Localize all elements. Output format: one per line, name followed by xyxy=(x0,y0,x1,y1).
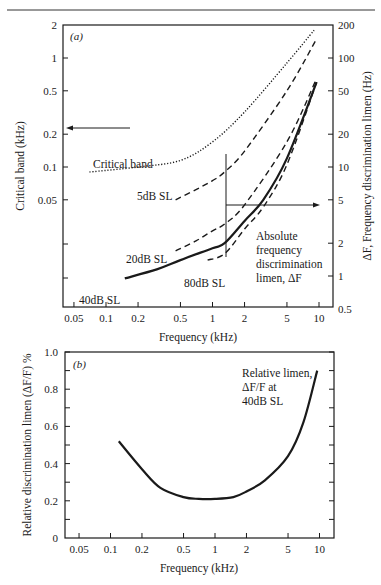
y-tick-label: 2 xyxy=(338,237,344,249)
panel-a-left-y-title: Critical band (kHz) xyxy=(14,121,27,211)
y-tick-label: 0.1 xyxy=(43,161,57,173)
x-tick-label: 0.05 xyxy=(64,312,84,324)
y-tick-label: 0 xyxy=(53,532,59,544)
sl40-label: 40dB SL xyxy=(79,294,120,306)
absolute-limen-label: Absolute frequency discrimination limen,… xyxy=(256,230,323,285)
x-tick-label: 10 xyxy=(314,543,326,555)
panel-a-right-y-axis: 2001005020105210.5 xyxy=(328,19,355,315)
y-tick-label: 1 xyxy=(338,270,344,282)
arrow-left-icon xyxy=(66,126,73,131)
y-tick-label: 50 xyxy=(338,85,350,97)
y-tick-label: 0.05 xyxy=(38,194,58,206)
critical-band-label: Critical band xyxy=(93,158,153,170)
y-tick-label: 0.5 xyxy=(338,303,352,315)
sl5-label: 5dB SL xyxy=(137,190,172,202)
x-tick-label: 5 xyxy=(284,312,290,324)
y-tick-label: 20 xyxy=(338,128,350,140)
relative-label-line-1: Relative limen, xyxy=(242,367,312,380)
panel-b-y-title: Relative discrimination limen (ΔF/F) % xyxy=(21,353,34,536)
x-tick-label: 0.1 xyxy=(99,312,113,324)
absolute-label-line-2: frequency xyxy=(256,244,302,257)
x-tick-label: 1 xyxy=(212,543,218,555)
y-tick-label: 0.4 xyxy=(44,458,58,470)
y-tick-label: 5 xyxy=(338,194,344,206)
y-tick-label: 200 xyxy=(338,19,355,31)
relative-label-line-2: ΔF/F at xyxy=(242,381,277,393)
panel-a-label: (a) xyxy=(70,30,83,43)
x-tick-label: 2 xyxy=(242,312,248,324)
y-tick-label: 0.6 xyxy=(44,420,58,432)
panel-b-x-axis: 0.050.10.20.512510 xyxy=(69,533,325,555)
x-tick-label: 5 xyxy=(285,543,291,555)
absolute-label-line-4: limen, ΔF xyxy=(256,272,302,285)
x-tick-label: 0.05 xyxy=(69,543,89,555)
y-tick-label: 1.0 xyxy=(44,346,58,358)
sl80-label: 80dB SL xyxy=(184,277,225,289)
panel-b-label: (b) xyxy=(73,358,86,371)
arrow-right-icon xyxy=(313,203,320,208)
panel-b-x-title: Frequency (kHz) xyxy=(160,562,238,575)
x-tick-label: 0.5 xyxy=(174,312,188,324)
x-tick-label: 10 xyxy=(314,312,326,324)
y-tick-label: 2 xyxy=(52,19,58,31)
panel-b-chart: 0.050.10.20.512510 00.20.40.60.81.0 (b) … xyxy=(21,346,334,575)
curve-5db-sl xyxy=(176,39,317,200)
curve-relative-limen xyxy=(119,371,317,500)
relative-label-line-3: 40dB SL xyxy=(242,395,283,407)
absolute-label-line-1: Absolute xyxy=(256,230,298,242)
panel-a-right-y-title: ΔF, Frequency discrimination limen (Hz) xyxy=(361,71,374,261)
y-tick-label: 1 xyxy=(52,52,58,64)
figure: 0.050.10.20.512510 210.50.20.10.05 20010… xyxy=(0,0,381,585)
y-tick-label: 0.2 xyxy=(43,128,57,140)
x-tick-label: 2 xyxy=(244,543,250,555)
panel-a-chart: 0.050.10.20.512510 210.50.20.10.05 20010… xyxy=(14,19,374,344)
x-tick-label: 1 xyxy=(210,312,216,324)
relative-limen-label: Relative limen, ΔF/F at 40dB SL xyxy=(242,367,312,407)
y-tick-label: 10 xyxy=(338,161,350,173)
y-tick-label: 0.2 xyxy=(44,495,58,507)
y-tick-label: 0.5 xyxy=(43,85,57,97)
y-tick-label: 100 xyxy=(338,52,355,64)
x-tick-label: 0.5 xyxy=(177,543,191,555)
panel-a-x-title: Frequency (kHz) xyxy=(159,331,237,344)
x-tick-label: 0.1 xyxy=(104,543,118,555)
curve-critical-band xyxy=(90,30,315,172)
x-tick-label: 0.2 xyxy=(135,543,149,555)
curve-20db-sl xyxy=(176,78,317,251)
absolute-label-line-3: discrimination xyxy=(256,258,323,270)
panel-b-curves xyxy=(119,371,317,500)
x-tick-label: 0.2 xyxy=(131,312,145,324)
sl20-label: 20dB SL xyxy=(126,253,167,265)
y-tick-label: 0.8 xyxy=(44,383,58,395)
